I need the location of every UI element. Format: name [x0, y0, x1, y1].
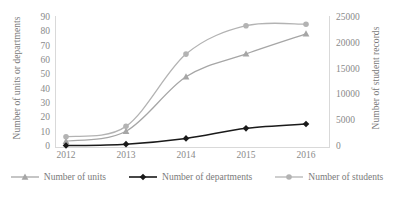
dual-axis-line-chart: Number of units or departments Number of…	[0, 0, 393, 198]
legend-marker-number-of-students	[286, 174, 292, 180]
data-point-number-of-students-2016	[303, 21, 309, 27]
axis-lines	[55, 16, 330, 148]
legend-swatch-number-of-students	[274, 172, 304, 182]
legend-swatch-number-of-departments	[128, 172, 158, 182]
series-layer	[63, 21, 310, 148]
series-line-number-of-students	[66, 23, 306, 137]
chart-legend: Number of unitsNumber of departmentsNumb…	[0, 172, 393, 182]
legend-swatch-number-of-units	[10, 172, 40, 182]
data-point-number-of-units-2014	[183, 73, 190, 79]
legend-item-number-of-units[interactable]: Number of units	[10, 172, 106, 182]
legend-label-number-of-students: Number of students	[308, 172, 383, 182]
data-point-number-of-departments-2013	[123, 141, 130, 148]
series-number-of-students	[63, 21, 309, 139]
legend-label-number-of-units: Number of units	[44, 172, 106, 182]
data-point-number-of-students-2014	[183, 51, 189, 57]
data-point-number-of-students-2012	[63, 134, 69, 140]
data-point-number-of-departments-2016	[303, 121, 310, 128]
legend-label-number-of-departments: Number of departments	[162, 172, 252, 182]
data-point-number-of-departments-2015	[243, 125, 250, 132]
data-point-number-of-students-2013	[123, 124, 129, 130]
series-number-of-units	[63, 30, 310, 144]
plot-area	[0, 0, 393, 198]
data-point-number-of-departments-2014	[183, 135, 190, 142]
data-point-number-of-students-2015	[243, 23, 249, 29]
series-line-number-of-units	[66, 34, 306, 142]
legend-item-number-of-departments[interactable]: Number of departments	[128, 172, 252, 182]
legend-item-number-of-students[interactable]: Number of students	[274, 172, 383, 182]
legend-marker-number-of-departments	[140, 174, 147, 181]
data-point-number-of-units-2016	[303, 30, 310, 36]
